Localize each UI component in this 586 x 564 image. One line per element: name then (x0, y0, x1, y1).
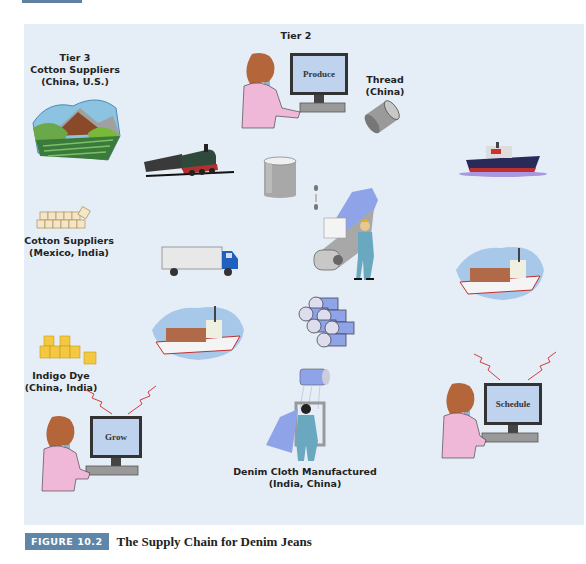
cargo-ship-icon (458, 140, 548, 180)
figure-title: The Supply Chain for Denim Jeans (117, 534, 312, 550)
computer-operator-icon: Produce (240, 50, 360, 130)
tier2-label: Tier 2 (276, 30, 316, 42)
truck-icon (160, 245, 242, 277)
dye-barrels-icon (38, 334, 104, 370)
container-ship-icon-2 (148, 300, 248, 362)
svg-text:Schedule: Schedule (496, 399, 531, 409)
thread-spool-icon (360, 100, 405, 135)
svg-text:Grow: Grow (105, 432, 127, 442)
fabric-rolls-icon (298, 296, 360, 354)
denim-cloth-label: Denim Cloth Manufactured (India, China) (230, 466, 380, 490)
yarn-canister-icon (260, 155, 300, 200)
tier3-label: Tier 3 Cotton Suppliers (China, U.S.) (30, 52, 120, 88)
train-icon (142, 142, 237, 180)
cotton-bales-icon (34, 206, 94, 234)
computer-operator-icon-grow: Grow (40, 413, 160, 493)
header-bar-fragment (22, 0, 82, 3)
container-ship-icon (452, 240, 547, 302)
computer-operator-icon-schedule: Schedule (440, 380, 560, 460)
farm-landscape-icon (28, 88, 123, 163)
figure-number-badge: FIGURE 10.2 (25, 533, 109, 550)
spinning-machine-worker-icon (312, 180, 392, 280)
loom-worker-icon (262, 365, 342, 465)
thread-label: Thread (China) (360, 74, 410, 98)
figure-caption: FIGURE 10.2 The Supply Chain for Denim J… (25, 533, 312, 550)
cotton-suppliers-label: Cotton Suppliers (Mexico, India) (24, 235, 114, 259)
svg-text:Produce: Produce (303, 69, 335, 79)
